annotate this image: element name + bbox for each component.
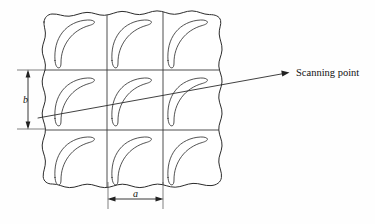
- dimension-b: b: [17, 70, 46, 130]
- dimension-b-arrowhead-down: [26, 122, 31, 130]
- scan-arrowhead-icon: [281, 71, 289, 77]
- figure-root: b a Scanning point: [0, 0, 375, 224]
- dimension-b-label: b: [23, 94, 28, 105]
- dimension-a-label: a: [133, 188, 138, 199]
- dimension-a-arrowhead-left: [108, 197, 116, 202]
- scanning-point-diagram-canvas: b a Scanning point: [0, 0, 375, 224]
- scanning-point-label: Scanning point: [296, 67, 359, 78]
- dimension-a-arrowhead-right: [156, 197, 164, 202]
- dimension-b-arrowhead-up: [26, 70, 31, 78]
